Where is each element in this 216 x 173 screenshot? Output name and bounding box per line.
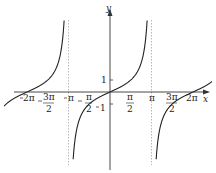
- x-tick-label-pi2-den: 2: [127, 104, 133, 114]
- x-tick-label-neg2pi: 2π: [23, 93, 35, 103]
- x-tick-label-pi: π: [149, 93, 155, 103]
- x-tick-label-negpi2-den: 2: [86, 104, 92, 114]
- tangent-graph: y x 1 1 2π 3π 2 π π 2 π 2 π 3π 2 2π: [0, 0, 216, 173]
- x-tick-label-negpi: π: [68, 93, 74, 103]
- y-axis-label: y: [105, 3, 112, 13]
- x-tick-label-3pi2-num: 3π: [166, 92, 178, 102]
- y-tick-label-neg1: 1: [100, 103, 106, 113]
- x-tick-label-neg3pi2-den: 2: [46, 104, 52, 114]
- x-tick-label-2pi: 2π: [186, 93, 198, 103]
- x-axis-label: x: [203, 94, 208, 104]
- x-tick-label-negpi2-num: π: [86, 92, 92, 102]
- x-tick-label-pi2-num: π: [127, 92, 133, 102]
- x-tick-label-neg3pi2-num: 3π: [43, 92, 55, 102]
- tangent-curves: [4, 20, 212, 159]
- y-tick-label-1: 1: [101, 75, 107, 85]
- x-tick-label-3pi2-den: 2: [169, 104, 175, 114]
